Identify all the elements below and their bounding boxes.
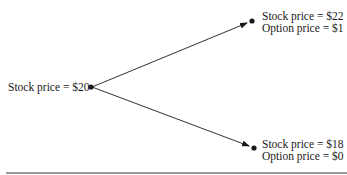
edge-up-arrow <box>92 23 247 87</box>
bottom-divider-rule <box>6 172 347 174</box>
edge-down-arrow <box>92 87 249 146</box>
down-option-price: Option price = $0 <box>262 150 344 162</box>
up-node-label: Stock price = $22 Option price = $1 <box>262 10 344 34</box>
up-node-dot <box>249 18 254 23</box>
up-stock-price: Stock price = $22 <box>262 10 344 22</box>
root-stock-price: Stock price = $20 <box>8 81 90 93</box>
down-node-label: Stock price = $18 Option price = $0 <box>262 138 344 162</box>
down-stock-price: Stock price = $18 <box>262 138 344 150</box>
root-node-label: Stock price = $20 <box>8 81 90 93</box>
down-node-dot <box>251 145 256 150</box>
binomial-tree-diagram: Stock price = $20 Stock price = $22 Opti… <box>0 0 347 175</box>
up-option-price: Option price = $1 <box>262 22 344 34</box>
